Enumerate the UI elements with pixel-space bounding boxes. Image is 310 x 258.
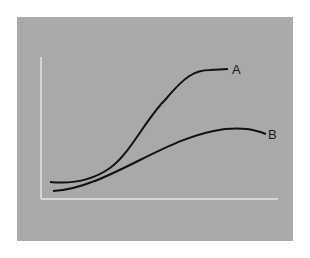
series-b-line [53, 128, 266, 191]
series-a-line [50, 69, 228, 183]
series-b-label: B [268, 127, 277, 142]
line-chart [0, 0, 310, 258]
series-a-label: A [232, 62, 241, 77]
